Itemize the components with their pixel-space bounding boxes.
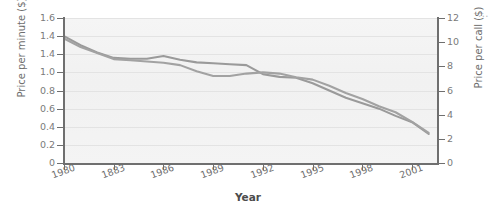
left-axis-tick <box>57 91 63 92</box>
left-axis-tick-label: 0.4 <box>2 122 55 132</box>
right-axis-tick <box>439 42 445 43</box>
series-line-1 <box>64 39 429 133</box>
right-axis-tick <box>439 66 445 67</box>
left-axis-tick-label: 0 <box>2 158 55 168</box>
left-axis-tick <box>57 54 63 55</box>
left-axis-tick-label: 1.0 <box>2 67 55 77</box>
right-axis-tick <box>439 91 445 92</box>
left-axis-tick-label: 1.6 <box>2 13 55 23</box>
left-axis-tick-label: 1.4 <box>2 31 55 41</box>
right-axis-tick-label: 8 <box>447 61 473 71</box>
right-axis-tick-label: 12 <box>447 13 473 23</box>
right-axis-tick <box>439 115 445 116</box>
right-axis-tick-label: 4 <box>447 110 473 120</box>
left-axis-title: Price per minute ($) <box>16 0 27 113</box>
left-axis-tick-label: 0.2 <box>2 140 55 150</box>
series-lines <box>64 18 437 163</box>
left-axis-tick <box>57 36 63 37</box>
left-axis-tick <box>57 18 63 19</box>
right-axis-tick <box>439 139 445 140</box>
ellipsis-marker: ... <box>478 8 489 19</box>
chart-figure: 1.61.41.41.00.80.60.40.20 121086420 1980… <box>0 0 496 211</box>
left-axis-tick <box>57 109 63 110</box>
left-axis-tick-label: 0.6 <box>2 104 55 114</box>
right-axis-tick-label: 6 <box>447 86 473 96</box>
right-axis-tick-label: 10 <box>447 37 473 47</box>
left-axis-tick-label: 0.8 <box>2 86 55 96</box>
left-axis-tick <box>57 163 63 164</box>
left-axis-tick <box>57 127 63 128</box>
right-axis-tick-label: 0 <box>447 158 473 168</box>
left-axis-tick-label: 1.4 <box>2 49 55 59</box>
right-axis-tick <box>439 163 445 164</box>
left-axis-tick <box>57 145 63 146</box>
x-axis-title: Year <box>0 191 496 203</box>
series-line-0 <box>64 36 429 134</box>
left-axis-tick <box>57 72 63 73</box>
right-axis-tick <box>439 18 445 19</box>
plot-area <box>64 18 437 163</box>
right-axis-tick-label: 2 <box>447 134 473 144</box>
left-axis-spine <box>63 17 65 164</box>
